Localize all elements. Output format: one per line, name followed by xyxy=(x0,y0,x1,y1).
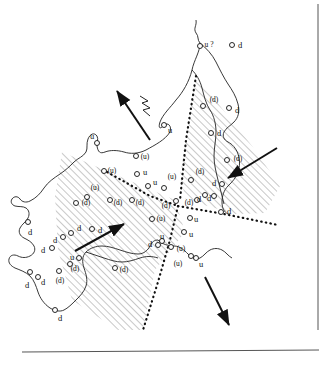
station-circle xyxy=(162,186,167,191)
polarity-label: (d) xyxy=(234,155,243,163)
map-graphic xyxy=(0,0,319,376)
polarity-label: u xyxy=(199,260,203,269)
polarity-label: d xyxy=(148,240,152,249)
polarity-label: u xyxy=(153,178,157,187)
station-circle xyxy=(74,201,79,206)
station-circle xyxy=(169,245,174,250)
station-circle xyxy=(90,227,95,232)
station-circle xyxy=(26,220,31,225)
border-bottom xyxy=(22,350,319,352)
station-circle xyxy=(198,44,203,49)
polarity-label: u xyxy=(143,168,147,177)
station-circle xyxy=(174,199,179,204)
polarity-label: (u) xyxy=(174,260,183,268)
polarity-label: d xyxy=(238,41,242,50)
station-circle xyxy=(113,266,118,271)
southeast-arrow xyxy=(205,277,229,325)
polarity-label: d xyxy=(25,281,29,290)
station-circle xyxy=(189,178,194,183)
polarity-label: (d) xyxy=(185,199,194,207)
station-circle xyxy=(182,230,187,235)
polarity-label: d xyxy=(227,207,231,216)
station-circle xyxy=(77,256,82,261)
station-circle xyxy=(53,308,58,313)
station-circle xyxy=(69,231,74,236)
figure-canvas: u ?d(d)dd(d)(d)(d)dddduu(u)(u)u(u)u(u)(d… xyxy=(0,0,319,376)
polarity-label: (u) xyxy=(177,245,186,253)
polarity-label: d xyxy=(28,228,32,237)
polarity-label: (d) xyxy=(162,202,171,210)
polarity-label: (d) xyxy=(210,96,219,104)
station-circle xyxy=(219,210,224,215)
polarity-label: (d) xyxy=(120,266,129,274)
station-circle xyxy=(150,217,155,222)
polarity-label: (d) xyxy=(71,265,80,273)
station-circle xyxy=(201,104,206,109)
station-circle xyxy=(212,194,217,199)
polarity-label: d xyxy=(41,246,45,255)
station-circle xyxy=(28,270,33,275)
station-circle xyxy=(209,131,214,136)
polarity-label: d xyxy=(58,314,62,323)
polarity-label: d xyxy=(235,106,239,115)
polarity-label: u xyxy=(70,253,74,262)
polarity-label: d xyxy=(98,226,102,235)
station-circle xyxy=(95,141,100,146)
station-circle xyxy=(108,198,113,203)
station-circle xyxy=(102,169,107,174)
polarity-label: (d) xyxy=(136,199,145,207)
northwest-arrow xyxy=(117,91,150,140)
station-circle xyxy=(220,182,225,187)
station-circle xyxy=(225,158,230,163)
polarity-label: d xyxy=(207,194,211,203)
station-circle xyxy=(146,184,151,189)
station-circle xyxy=(188,216,193,221)
polarity-label: (u) xyxy=(91,184,100,192)
polarity-label: u xyxy=(90,132,94,141)
polarity-label: d xyxy=(217,129,221,138)
polarity-label: u ? xyxy=(205,41,214,49)
polarity-label: d xyxy=(212,179,216,188)
polarity-label: u xyxy=(194,215,198,224)
polarity-label: (u) xyxy=(157,215,166,223)
polarity-label: d xyxy=(77,224,81,233)
station-circle xyxy=(162,123,167,128)
polarity-label: d xyxy=(197,195,201,204)
polarity-label: u xyxy=(189,230,193,239)
polarity-label: u xyxy=(160,232,164,241)
station-circle xyxy=(227,106,232,111)
polarity-label: (d) xyxy=(56,277,65,285)
polarity-label: d xyxy=(41,278,45,287)
station-circle xyxy=(134,154,139,159)
polarity-label: (d) xyxy=(196,168,205,176)
station-circle xyxy=(156,243,161,248)
station-circle xyxy=(36,275,41,280)
polarity-label: (d) xyxy=(82,199,91,207)
polarity-label: (d) xyxy=(114,199,123,207)
station-circle xyxy=(50,246,55,251)
polarity-label: (u) xyxy=(168,173,177,181)
polarity-label: u xyxy=(168,126,172,135)
polarity-label: (u) xyxy=(108,167,117,175)
station-circle xyxy=(230,43,235,48)
station-circle xyxy=(61,235,66,240)
station-circle xyxy=(57,269,62,274)
polarity-label: d xyxy=(53,236,57,245)
polarity-label: (u) xyxy=(141,153,150,161)
station-circle xyxy=(189,254,194,259)
station-circle xyxy=(194,256,199,261)
hatched-zone-northeast xyxy=(180,76,280,214)
station-circle xyxy=(130,198,135,203)
zigzag-icon xyxy=(140,96,150,116)
station-circle xyxy=(135,172,140,177)
